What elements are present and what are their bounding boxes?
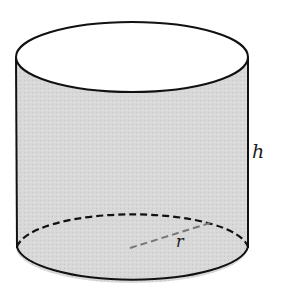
radius-label: r: [176, 234, 184, 250]
cylinder-diagram: h r: [0, 0, 290, 303]
left-edge: [16, 57, 17, 248]
top-face: [16, 22, 248, 92]
height-label: h: [252, 142, 264, 161]
cylinder-figure: [0, 0, 290, 303]
